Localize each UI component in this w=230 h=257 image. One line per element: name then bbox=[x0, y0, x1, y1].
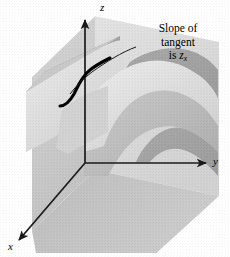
annotation-is-text: is bbox=[169, 49, 180, 61]
partial-derivative-diagram: z y x Slope of tangent is zx bbox=[0, 0, 230, 257]
annotation-line-2: tangent bbox=[136, 36, 220, 50]
z-axis-label: z bbox=[100, 2, 104, 13]
y-axis-label: y bbox=[213, 156, 218, 167]
annotation-subscript-x: x bbox=[184, 54, 187, 63]
annotation-line-3: is zx bbox=[136, 49, 220, 63]
x-axis-label: x bbox=[8, 241, 13, 252]
slope-annotation: Slope of tangent is zx bbox=[136, 22, 220, 63]
annotation-line-1: Slope of bbox=[136, 22, 220, 36]
